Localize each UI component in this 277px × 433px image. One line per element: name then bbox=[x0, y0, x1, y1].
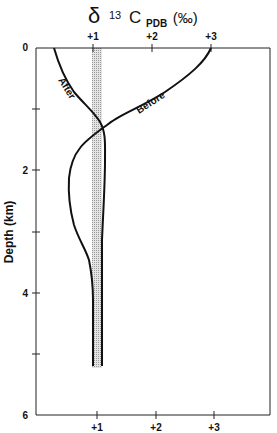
before-label: Before bbox=[134, 89, 167, 116]
before-curve bbox=[69, 48, 211, 366]
top-x-tick-label: +2 bbox=[146, 31, 158, 42]
y-tick-label: 4 bbox=[22, 288, 28, 299]
y-tick-label: 2 bbox=[22, 165, 28, 176]
y-tick-label: 6 bbox=[22, 410, 28, 421]
bottom-x-tick-label: +2 bbox=[150, 422, 162, 433]
top-x-tick-label: +1 bbox=[87, 31, 99, 42]
y-tick-label: 0 bbox=[22, 42, 28, 53]
bottom-x-tick-label: +3 bbox=[208, 422, 220, 433]
y-axis-label: Depth (km) bbox=[2, 201, 16, 264]
chart-title: δ 13 C PDB (‰) bbox=[88, 3, 198, 31]
top-x-tick-label: +3 bbox=[205, 31, 217, 42]
bottom-x-tick-label: +1 bbox=[91, 422, 103, 433]
after-label: After bbox=[56, 75, 78, 101]
depth-profile-chart: δ 13 C PDB (‰) +1 +2 +3 +1 +2 +3 0 2 4 bbox=[0, 0, 277, 433]
